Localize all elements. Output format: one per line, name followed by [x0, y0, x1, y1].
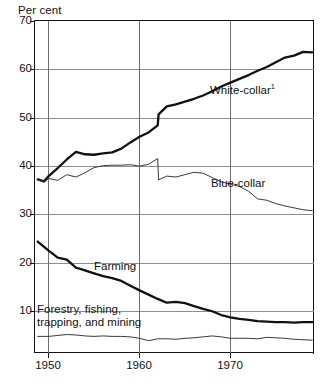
series-line-blue-collar — [38, 159, 312, 211]
series-label-farming: Farming — [94, 260, 136, 273]
footnote-marker-1: 1 — [271, 82, 275, 91]
series-line-forestry-fishing-trapping-mining — [38, 335, 312, 341]
x-tick-mark-1960 — [139, 353, 140, 358]
series-label-white-collar-text: White-collar — [210, 84, 271, 96]
series-label-blue-collar: Blue-collar — [211, 177, 265, 190]
x-tick-mark-1950 — [48, 353, 49, 358]
chart-container: Per cent 70 60 50 40 30 20 10 — [0, 0, 324, 382]
series-label-forestry-line2: trapping, and mining — [37, 316, 141, 329]
x-tick-mark-1970 — [230, 353, 231, 358]
series-label-white-collar: White-collar1 — [210, 84, 275, 97]
series-line-white-collar — [38, 52, 312, 181]
x-tick-label-1950: 1950 — [28, 359, 68, 372]
x-tick-label-1970: 1970 — [210, 359, 250, 372]
series-label-forestry-fishing-trapping-mining: Forestry, fishing, trapping, and mining — [37, 303, 141, 329]
x-tick-label-1960: 1960 — [119, 359, 159, 372]
series-label-forestry-line1: Forestry, fishing, — [37, 303, 121, 315]
